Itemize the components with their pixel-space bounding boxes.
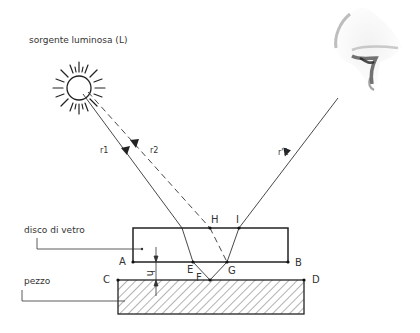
arrow-r2-icon (130, 139, 139, 148)
point-g-label: G (228, 265, 236, 276)
point-f-label: F (196, 272, 202, 283)
ray-r2 (88, 92, 227, 262)
point-e-label: E (187, 264, 193, 275)
ray-r2-label: r2 (150, 146, 158, 155)
points (116, 226, 305, 281)
gap-label: h (145, 270, 156, 276)
point-d-label: D (312, 274, 320, 285)
workpiece-label: pezzo (24, 276, 51, 286)
ray-r1-reflected-label: r'1 (278, 148, 289, 157)
workpiece (118, 280, 304, 314)
workpiece-leader (22, 290, 125, 301)
point-b-label: B (295, 257, 302, 268)
light-source-label: sorgente luminosa (L) (29, 35, 127, 45)
eye-icon (336, 8, 402, 92)
point-h-label: H (211, 214, 219, 225)
ray-r1-label: r1 (100, 146, 108, 155)
interference-diagram: sorgente luminosa (L) (0, 0, 420, 333)
point-i-label: I (236, 214, 239, 225)
point-c-label: C (103, 274, 110, 285)
glass-disc-leader (37, 238, 141, 249)
ray-r1 (83, 94, 338, 280)
glass-disc-label: disco di vetro (24, 225, 85, 235)
point-a-label: A (119, 256, 126, 267)
sun-icon (53, 62, 105, 114)
